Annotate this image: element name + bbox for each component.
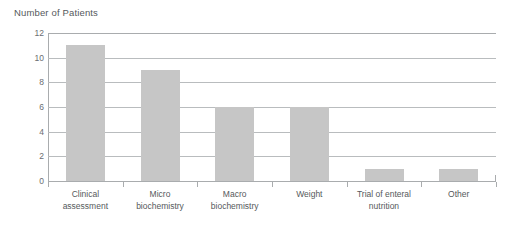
- x-axis-label: Other: [421, 189, 496, 201]
- x-tick-mark: [347, 182, 348, 187]
- y-tick-label-10: 10: [18, 53, 44, 63]
- bar: [141, 70, 180, 181]
- y-tick-label-12: 12: [18, 28, 44, 38]
- x-axis-label: Weight: [272, 189, 347, 201]
- x-tick-mark: [123, 182, 124, 187]
- chart-screenshot: Number of Patients 024681012 Clinical as…: [0, 0, 514, 229]
- bar: [290, 107, 329, 181]
- y-tick-label-0: 0: [18, 176, 44, 186]
- bar: [215, 107, 254, 181]
- bar: [439, 169, 478, 181]
- bars-layer: [48, 33, 496, 181]
- x-axis-label: Clinical assessment: [48, 189, 123, 212]
- x-axis-label: Trial of enteral nutrition: [347, 189, 422, 212]
- plot-area: [48, 33, 496, 181]
- x-tick-mark: [197, 182, 198, 187]
- x-tick-mark: [421, 182, 422, 187]
- y-tick-label-2: 2: [18, 151, 44, 161]
- x-axis-label: Macro biochemistry: [197, 189, 272, 212]
- bar: [66, 45, 105, 181]
- y-tick-label-4: 4: [18, 127, 44, 137]
- x-tick-mark: [48, 182, 49, 187]
- x-tick-mark: [496, 182, 497, 187]
- y-tick-label-8: 8: [18, 77, 44, 87]
- x-axis-label: Micro biochemistry: [123, 189, 198, 212]
- x-tick-mark: [272, 182, 273, 187]
- y-axis-tick-labels: 024681012: [14, 0, 44, 229]
- bar: [365, 169, 404, 181]
- y-tick-label-6: 6: [18, 102, 44, 112]
